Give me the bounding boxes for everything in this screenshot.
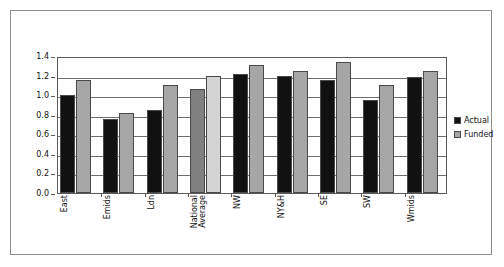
bar-actual bbox=[190, 89, 205, 193]
bar-funded bbox=[336, 62, 351, 193]
x-axis-category-label: Wmids bbox=[408, 195, 444, 251]
bar-group bbox=[145, 58, 188, 193]
bar-group bbox=[361, 58, 404, 193]
y-axis-tick-label: 1.2 bbox=[36, 73, 49, 81]
y-axis-tick-mark bbox=[51, 194, 55, 195]
chart-legend: ActualFunded bbox=[454, 115, 502, 143]
bar-actual bbox=[320, 80, 335, 193]
bar-group bbox=[275, 58, 318, 193]
y-axis-tick-label: 0.2 bbox=[36, 170, 49, 178]
legend-swatch-icon bbox=[454, 117, 461, 124]
x-axis-category-label-line: NW bbox=[234, 195, 242, 209]
bar-group bbox=[405, 58, 448, 193]
y-axis-tick-label: 0.0 bbox=[36, 190, 49, 198]
bar-actual bbox=[103, 119, 118, 193]
bar-actual bbox=[233, 74, 248, 193]
x-axis-category-label: Ldn bbox=[148, 195, 184, 251]
y-axis-tick-mark bbox=[51, 77, 55, 78]
legend-item-label: Actual bbox=[464, 117, 489, 125]
bar-actual bbox=[363, 100, 378, 193]
bar-funded bbox=[249, 65, 264, 193]
y-axis-tick-label: 0.4 bbox=[36, 151, 49, 159]
y-axis-tick-mark bbox=[51, 135, 55, 136]
x-axis-category-label: SE bbox=[321, 195, 357, 251]
bar-funded bbox=[293, 71, 308, 193]
y-axis-tick-label: 1.0 bbox=[36, 92, 49, 100]
x-axis-category-label-line: Ldn bbox=[148, 195, 156, 210]
y-axis-tick-mark bbox=[51, 96, 55, 97]
x-axis-category-label: NationalAverage bbox=[191, 195, 227, 251]
bar-group bbox=[101, 58, 144, 193]
bar-funded bbox=[163, 85, 178, 193]
y-axis: 1.41.21.00.80.60.40.20.0 bbox=[21, 51, 55, 201]
x-axis-category-label-line: SW bbox=[364, 195, 372, 208]
bar-funded bbox=[119, 113, 134, 193]
x-axis-category-label: SW bbox=[364, 195, 400, 251]
bar-group bbox=[231, 58, 274, 193]
bar-actual bbox=[277, 76, 292, 193]
bar-funded bbox=[379, 85, 394, 193]
bar-group bbox=[188, 58, 231, 193]
x-axis-category-label: NW bbox=[234, 195, 270, 251]
y-axis-tick-mark bbox=[51, 57, 55, 58]
x-axis-category-label: Emids bbox=[104, 195, 140, 251]
bar-funded bbox=[206, 76, 221, 193]
y-axis-tick-mark bbox=[51, 116, 55, 117]
x-axis-category-label-line: Average bbox=[199, 195, 207, 228]
x-axis-category-label-line: SE bbox=[321, 195, 329, 205]
legend-item: Funded bbox=[454, 129, 502, 140]
bar-funded bbox=[76, 80, 91, 193]
x-axis-category-label: NY&H bbox=[278, 195, 314, 251]
y-axis-tick-label: 1.4 bbox=[36, 53, 49, 61]
chart-frame: 1.41.21.00.80.60.40.20.0 EastEmidsLdnNat… bbox=[10, 10, 492, 255]
bar-group bbox=[318, 58, 361, 193]
legend-swatch-icon bbox=[454, 131, 461, 138]
x-axis-category-label-line: Wmids bbox=[408, 195, 416, 222]
y-axis-tick-label: 0.6 bbox=[36, 131, 49, 139]
legend-item: Actual bbox=[454, 115, 502, 126]
bar-actual bbox=[407, 77, 422, 193]
plot-area bbox=[57, 57, 447, 194]
bar-actual bbox=[60, 95, 75, 193]
bar-funded bbox=[423, 71, 438, 193]
x-axis-category-label-line: Emids bbox=[104, 195, 112, 219]
bar-group bbox=[58, 58, 101, 193]
x-axis-category-label-line: NY&H bbox=[278, 195, 286, 218]
x-axis-category-labels: EastEmidsLdnNationalAverageNWNY&HSESWWmi… bbox=[57, 195, 447, 253]
y-axis-tick-mark bbox=[51, 155, 55, 156]
x-axis-category-label: East bbox=[61, 195, 97, 251]
legend-item-label: Funded bbox=[464, 131, 493, 139]
x-axis-category-label-line: East bbox=[61, 195, 69, 212]
y-axis-tick-mark bbox=[51, 174, 55, 175]
bar-actual bbox=[147, 110, 162, 193]
y-axis-tick-label: 0.8 bbox=[36, 112, 49, 120]
